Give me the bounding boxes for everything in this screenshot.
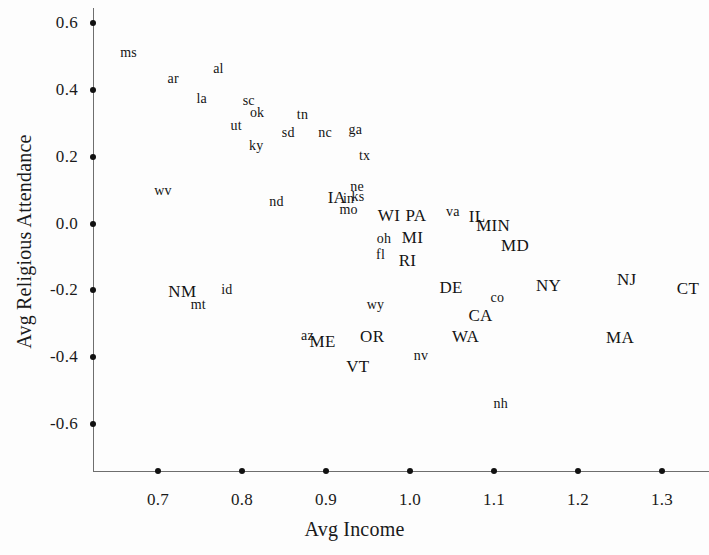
data-point-label: NJ [617, 270, 637, 290]
data-point-label: fl [376, 247, 385, 263]
x-tick-marker [239, 468, 245, 474]
data-point-label: nh [494, 396, 508, 412]
y-tick-marker [90, 87, 96, 93]
data-point-label: VT [346, 357, 369, 377]
x-tick-label: 1.1 [483, 491, 505, 508]
data-point-label: la [196, 91, 207, 107]
x-tick-marker [407, 468, 413, 474]
data-point-label: tn [297, 107, 308, 123]
y-tick-marker [90, 287, 96, 293]
y-tick-marker [90, 20, 96, 26]
data-point-label: RI [399, 251, 417, 271]
data-point-label: mo [340, 202, 358, 218]
data-point-label: CA [468, 306, 492, 326]
data-point-label: id [221, 282, 232, 298]
data-point-label: ut [230, 118, 241, 134]
x-tick-label: 1.0 [399, 491, 421, 508]
x-tick-marker [491, 468, 497, 474]
data-point-label: NY [536, 276, 561, 296]
data-point-label: PA [405, 206, 426, 226]
x-tick-marker [575, 468, 581, 474]
data-point-label: nv [414, 348, 428, 364]
data-point-label: ME [310, 332, 336, 352]
data-point-label: WI [378, 206, 400, 226]
data-point-label: co [491, 290, 505, 306]
data-point-label: MA [606, 328, 634, 348]
y-tick-label: 0.6 [0, 14, 78, 31]
y-axis-title: Avg Religious Attendance [13, 77, 36, 407]
data-point-label: sd [282, 125, 295, 141]
x-tick-label: 0.7 [147, 491, 169, 508]
y-tick-marker [90, 354, 96, 360]
x-tick-marker [155, 468, 161, 474]
data-point-label: wv [154, 183, 172, 199]
data-point-label: ky [249, 138, 263, 154]
x-axis-title: Avg Income [0, 518, 709, 541]
data-point-label: oh [377, 231, 391, 247]
data-point-label: WA [452, 327, 479, 347]
y-tick-marker [90, 221, 96, 227]
x-axis-line [93, 471, 709, 472]
x-tick-label: 1.2 [567, 491, 589, 508]
data-point-label: ga [349, 122, 363, 138]
data-point-label: wy [367, 297, 385, 313]
scatter-plot-figure: 0.60.40.20.0-0.2-0.4-0.6 0.70.80.91.01.1… [0, 0, 709, 555]
data-point-label: tx [359, 148, 370, 164]
data-point-label: MI [402, 228, 423, 248]
data-point-label: ar [167, 71, 178, 87]
y-tick-marker [90, 154, 96, 160]
x-tick-label: 0.8 [231, 491, 253, 508]
x-tick-label: 1.3 [651, 491, 673, 508]
x-tick-label: 0.9 [315, 491, 337, 508]
data-point-label: nc [318, 125, 332, 141]
data-point-label: MD [501, 236, 529, 256]
y-tick-marker [90, 421, 96, 427]
data-point-label: ok [250, 105, 264, 121]
data-point-label: mt [191, 297, 206, 313]
data-point-label: DE [440, 278, 463, 298]
data-point-label: ms [120, 45, 137, 61]
x-tick-marker [323, 468, 329, 474]
data-point-label: CT [677, 279, 699, 299]
data-point-label: OR [360, 327, 384, 347]
data-point-label: nd [269, 194, 283, 210]
data-point-label: al [213, 61, 224, 77]
y-tick-label: -0.6 [0, 415, 78, 432]
x-tick-marker [659, 468, 665, 474]
data-point-label: va [446, 204, 460, 220]
data-point-label: MIN [476, 216, 510, 236]
y-axis-line [93, 8, 94, 472]
